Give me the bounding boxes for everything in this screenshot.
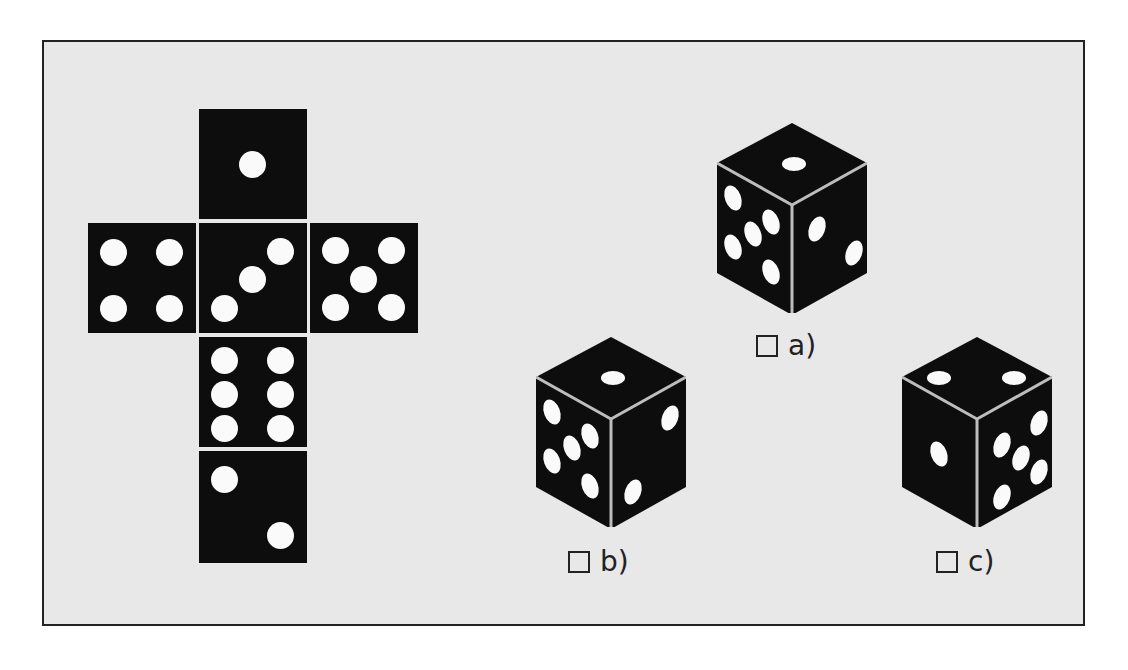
option-c[interactable]: c) <box>936 545 994 578</box>
pip <box>211 415 238 442</box>
net-face-below-6 <box>199 337 307 447</box>
pip <box>100 239 127 266</box>
pip <box>350 266 377 293</box>
pip <box>378 294 405 321</box>
pip <box>267 381 294 408</box>
option-a[interactable]: a) <box>756 329 816 362</box>
isometric-die-b <box>536 337 686 527</box>
pip <box>267 238 294 265</box>
pip <box>378 237 405 264</box>
pip <box>267 347 294 374</box>
net-face-right-5 <box>310 223 418 333</box>
pip <box>211 466 238 493</box>
die-option-c <box>902 337 1052 531</box>
pip <box>100 295 127 322</box>
pip <box>211 347 238 374</box>
option-c-label: c) <box>968 545 994 578</box>
net-face-center-3 <box>199 223 307 333</box>
die-option-b <box>536 337 686 531</box>
option-b[interactable]: b) <box>568 545 629 578</box>
isometric-die-c <box>902 337 1052 527</box>
pip <box>267 415 294 442</box>
die-option-a <box>717 123 867 317</box>
pip <box>322 237 349 264</box>
checkbox-option-c[interactable] <box>936 551 958 573</box>
pip <box>156 295 183 322</box>
net-face-top-1 <box>199 109 307 219</box>
isometric-die-a <box>717 123 867 313</box>
pip <box>211 381 238 408</box>
option-b-label: b) <box>600 545 629 578</box>
pip <box>156 239 183 266</box>
pip <box>322 294 349 321</box>
pip <box>211 295 238 322</box>
net-face-bottom-2 <box>199 451 307 563</box>
pip <box>239 151 266 178</box>
pip <box>267 522 294 549</box>
option-a-label: a) <box>788 329 816 362</box>
puzzle-frame: a) b) <box>42 40 1085 626</box>
checkbox-option-b[interactable] <box>568 551 590 573</box>
checkbox-option-a[interactable] <box>756 335 778 357</box>
pip <box>239 266 266 293</box>
net-face-left-4 <box>88 223 196 333</box>
